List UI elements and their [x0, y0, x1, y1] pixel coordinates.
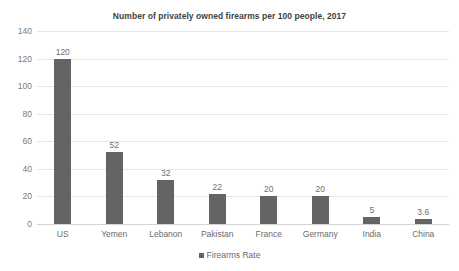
y-axis-tick-label: 140 [18, 26, 32, 36]
bar[interactable]: 120 [54, 59, 71, 224]
x-axis-tick-label: France [256, 229, 282, 239]
bar-group: 120US [37, 31, 89, 224]
x-axis-tick-label: Germany [303, 229, 338, 239]
bar-value-label: 52 [110, 140, 119, 150]
x-axis-tick-label: India [363, 229, 381, 239]
bar-group: 20Germany [295, 31, 347, 224]
bar-value-label: 20 [316, 184, 325, 194]
gridline [37, 224, 449, 225]
y-axis-tick-label: 120 [18, 54, 32, 64]
y-axis-tick-label: 80 [23, 109, 32, 119]
bar-value-label: 22 [213, 182, 222, 192]
legend-label: Firearms Rate [207, 250, 261, 260]
bar-value-label: 20 [264, 184, 273, 194]
x-axis-tick-label: Lebanon [149, 229, 182, 239]
bar[interactable]: 3.6 [415, 219, 432, 224]
bar-group: 52Yemen [89, 31, 141, 224]
x-axis-tick-label: Yemen [101, 229, 127, 239]
bar-group: 3.6China [398, 31, 450, 224]
bar[interactable]: 5 [363, 217, 380, 224]
bar-group: 32Lebanon [140, 31, 192, 224]
bar[interactable]: 20 [312, 196, 329, 224]
bar-value-label: 5 [369, 205, 374, 215]
bar-value-label: 3.6 [417, 207, 429, 217]
bar-group: 5India [346, 31, 398, 224]
y-axis-tick-label: 60 [23, 136, 32, 146]
bar-group: 22Pakistan [192, 31, 244, 224]
bar-group: 20France [243, 31, 295, 224]
y-axis-tick-label: 100 [18, 81, 32, 91]
chart-legend: Firearms Rate [0, 250, 459, 260]
plot-area: 020406080100120140 120US52Yemen32Lebanon… [37, 31, 449, 224]
bar[interactable]: 20 [260, 196, 277, 224]
chart-title: Number of privately owned firearms per 1… [0, 11, 459, 21]
y-axis-tick-label: 0 [27, 219, 32, 229]
x-axis-tick-label: Pakistan [201, 229, 234, 239]
x-axis-tick-label: US [57, 229, 69, 239]
bar[interactable]: 22 [209, 194, 226, 224]
bar-series: 120US52Yemen32Lebanon22Pakistan20France2… [37, 31, 449, 224]
bar[interactable]: 52 [106, 152, 123, 224]
bar-value-label: 120 [56, 47, 70, 57]
legend-swatch-icon [199, 253, 204, 258]
bar-value-label: 32 [161, 168, 170, 178]
bar-chart: Number of privately owned firearms per 1… [0, 0, 459, 271]
y-axis-tick-label: 40 [23, 164, 32, 174]
y-axis-tick-label: 20 [23, 191, 32, 201]
bar[interactable]: 32 [157, 180, 174, 224]
x-axis-tick-label: China [412, 229, 434, 239]
